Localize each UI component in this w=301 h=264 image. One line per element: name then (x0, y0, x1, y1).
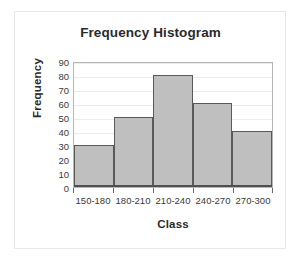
y-tick-label: 30 (45, 142, 69, 151)
y-tick-label: 60 (45, 100, 69, 109)
y-axis-title: Frequency (31, 43, 43, 133)
y-tick-label: 70 (45, 86, 69, 95)
histogram-bar[interactable] (74, 145, 114, 187)
bar-slot (232, 63, 272, 187)
bar-slot (114, 63, 154, 187)
x-tick-mark (73, 188, 74, 193)
histogram-bar[interactable] (193, 103, 233, 187)
x-tick-mark (113, 188, 114, 193)
bar-series (74, 63, 272, 187)
x-axis-line (74, 185, 272, 187)
x-tick-label: 180-210 (113, 195, 153, 206)
plot-area (73, 62, 273, 188)
x-tick-mark (233, 188, 234, 193)
histogram-figure: Frequency Histogram Frequency 9080706050… (0, 0, 301, 264)
x-tick-label: 210-240 (153, 195, 193, 206)
x-tick-mark (153, 188, 154, 193)
bar-slot (193, 63, 233, 187)
y-tick-label: 50 (45, 114, 69, 123)
x-tick-mark (272, 188, 273, 193)
y-tick-label: 10 (45, 170, 69, 179)
histogram-bar[interactable] (114, 117, 154, 187)
chart-title: Frequency Histogram (0, 25, 301, 40)
x-axis-tick-labels: 150-180180-210210-240240-270270-300 (73, 195, 273, 206)
y-tick-label: 40 (45, 128, 69, 137)
x-tick-mark (193, 188, 194, 193)
x-tick-label: 150-180 (73, 195, 113, 206)
x-axis-title: Class (73, 218, 273, 230)
bar-slot (153, 63, 193, 187)
x-tick-label: 240-270 (193, 195, 233, 206)
y-axis-tick-labels: 9080706050403020100 (45, 62, 69, 188)
bar-slot (74, 63, 114, 187)
y-tick-label: 90 (45, 58, 69, 67)
y-tick-label: 0 (45, 184, 69, 193)
x-axis-tick-marks (73, 188, 273, 193)
y-tick-label: 80 (45, 72, 69, 81)
histogram-bar[interactable] (232, 131, 272, 187)
y-tick-label: 20 (45, 156, 69, 165)
histogram-bar[interactable] (153, 75, 193, 187)
x-tick-label: 270-300 (233, 195, 273, 206)
